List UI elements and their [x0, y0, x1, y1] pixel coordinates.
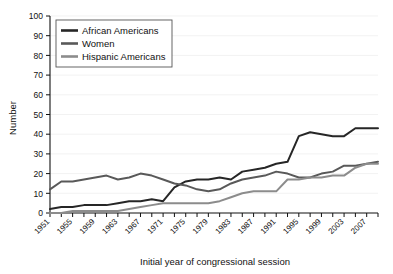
legend-label-women: Women: [82, 38, 115, 49]
y-tick-label: 100: [29, 11, 43, 21]
chart-legend: African AmericansWomenHispanic Americans: [56, 20, 172, 67]
line-chart: 0102030405060708090100 19511955195919631…: [0, 0, 393, 274]
chart-container: 0102030405060708090100 19511955195919631…: [0, 0, 393, 274]
y-tick-label: 60: [34, 90, 44, 100]
y-tick-label: 0: [38, 208, 43, 218]
y-tick-label: 90: [34, 31, 44, 41]
legend-label-african-americans: African Americans: [82, 25, 159, 36]
y-tick-label: 40: [34, 129, 44, 139]
y-tick-label: 30: [34, 149, 44, 159]
y-tick-label: 10: [34, 189, 44, 199]
y-axis-title: Number: [7, 101, 18, 135]
y-tick-label: 20: [34, 169, 44, 179]
y-tick-label: 50: [34, 110, 44, 120]
x-axis-title: Initial year of congressional session: [140, 256, 290, 267]
y-tick-label: 70: [34, 70, 44, 80]
legend-label-hispanic-americans: Hispanic Americans: [82, 51, 166, 62]
y-tick-label: 80: [34, 51, 44, 61]
